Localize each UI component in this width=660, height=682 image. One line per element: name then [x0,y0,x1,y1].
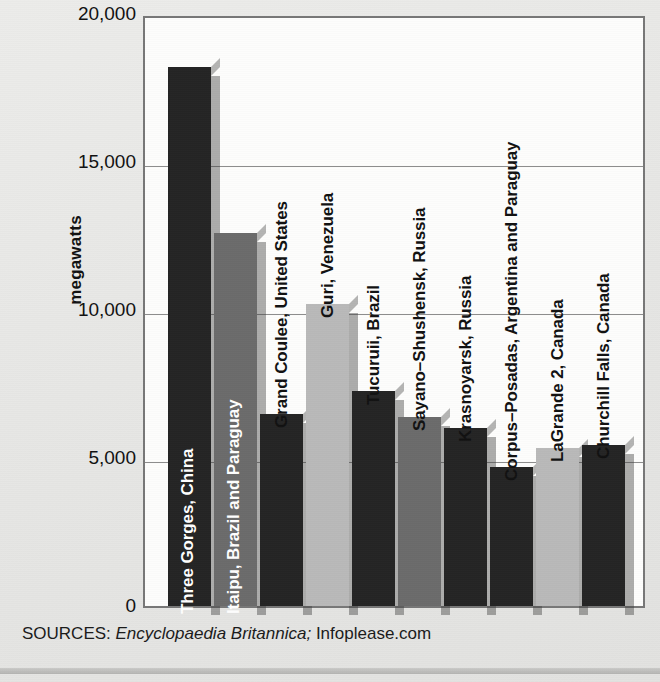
bar-face [536,448,579,606]
bar-series [145,18,643,606]
bar-shadow-top [487,419,496,437]
bar-category-label: Guri, Venezuela [318,193,338,318]
bar-category-label: Grand Coulee, United States [272,201,292,428]
chart-page: megawatts 20,00015,00010,0005,0000 Three… [0,0,660,682]
bar[interactable] [398,417,441,606]
y-tick-label: 10,000 [36,299,136,321]
bar-shadow-top [257,224,266,242]
bar-category-label: Krasnoyarsk, Russia [456,276,476,442]
bar-category-label: LaGrande 2, Canada [548,300,568,463]
bar-face [306,304,349,606]
bar[interactable] [260,414,303,606]
plot-area [143,16,645,608]
source-prefix: SOURCES: [22,624,111,643]
bar-face [444,428,487,606]
y-tick-label: 15,000 [36,151,136,173]
bar-shadow-top [625,436,634,454]
y-tick-label: 5,000 [36,447,136,469]
bar-face [260,414,303,606]
bar[interactable] [444,428,487,606]
bar-category-label: Three Gorges, China [178,449,198,614]
source-italic: Encyclopaedia Britannica; [116,624,312,643]
bar-category-label: Churchill Falls, Canada [594,274,614,460]
bar-category-label: Sayano–Shushensk, Russia [410,207,430,430]
source-tail: Infoplease.com [316,624,431,643]
y-axis-tick-labels: 20,00015,00010,0005,0000 [24,0,136,682]
bar-shadow-top [441,408,450,426]
y-tick-label: 0 [36,595,136,617]
bar[interactable] [306,304,349,606]
bar[interactable] [352,391,395,606]
bar-shadow-top [395,382,404,400]
bar-shadow-side [625,454,634,615]
bar-shadow-top [349,295,358,313]
bar-category-label: Corpus–Posadas, Argentina and Paraguay [502,141,522,480]
bar[interactable] [582,445,625,606]
bar-face [352,391,395,606]
bar-category-label: Tucuruii, Brazil [364,285,384,405]
bar-face [398,417,441,606]
bar[interactable] [490,467,533,606]
bar-face [582,445,625,606]
bar[interactable] [536,448,579,606]
bar-face [490,467,533,606]
bottom-rule [0,668,660,674]
y-tick-label: 20,000 [36,3,136,25]
source-credit: SOURCES: Encyclopaedia Britannica; Infop… [22,624,431,644]
bar-shadow-top [211,58,220,76]
bar-category-label: Itaipu, Brazil and Paraguay [224,399,244,614]
